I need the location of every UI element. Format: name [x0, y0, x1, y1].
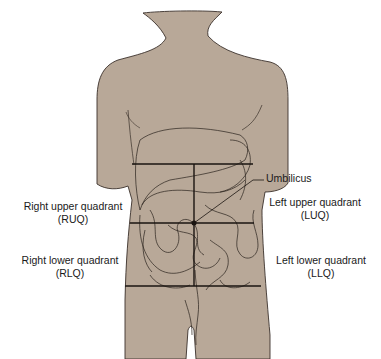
llq-label: Left lower quadrant (LLQ): [262, 254, 380, 280]
torso-illustration: [0, 0, 381, 359]
ruq-label: Right upper quadrant (RUQ): [14, 200, 132, 226]
rlq-label: Right lower quadrant (RLQ): [8, 254, 132, 280]
umbilicus-label: Umbilicus: [266, 172, 312, 185]
torso-silhouette: [97, 11, 288, 359]
luq-label: Left upper quadrant (LUQ): [256, 196, 374, 222]
abdominal-quadrants-diagram: Umbilicus Right upper quadrant (RUQ) Lef…: [0, 0, 381, 359]
